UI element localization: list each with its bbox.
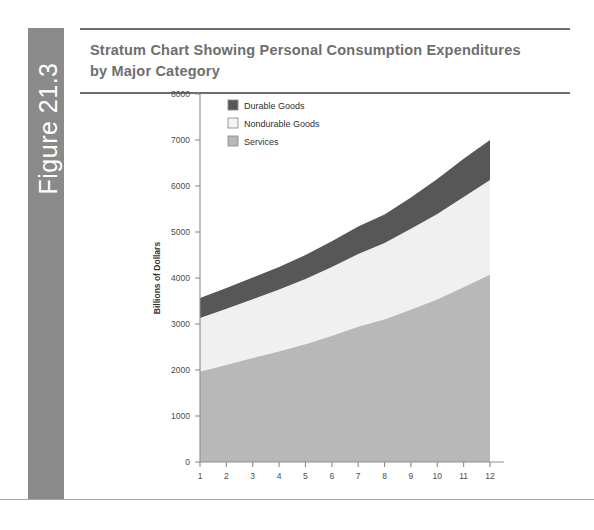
x-tick-label: 3 (250, 471, 255, 481)
figure-number-tab: Figure 21.3 (28, 28, 64, 500)
x-tick-group: 123456789101112 (198, 462, 495, 481)
y-tick-label: 3000 (171, 319, 190, 329)
legend-swatch (228, 136, 238, 146)
legend-swatch (228, 100, 238, 110)
figure-title-block: Stratum Chart Showing Personal Consumpti… (80, 28, 570, 94)
figure-page: Figure 21.3 Stratum Chart Showing Person… (0, 0, 594, 530)
x-tick-label: 2 (224, 471, 229, 481)
x-tick-label: 5 (303, 471, 308, 481)
y-tick-label: 7000 (171, 135, 190, 145)
figure-title-line1: Stratum Chart Showing Personal Consumpti… (90, 42, 521, 58)
y-tick-label: 6000 (171, 181, 190, 191)
x-tick-label: 10 (433, 471, 443, 481)
y-axis-title: Billions of Dollars (152, 242, 162, 315)
figure-title-line2: by Major Category (90, 63, 220, 79)
x-tick-label: 7 (356, 471, 361, 481)
figure-title: Stratum Chart Showing Personal Consumpti… (80, 30, 570, 92)
chart-canvas: 010002000300040005000600070008000 123456… (80, 88, 580, 488)
figure-number-label: Figure 21.3 (34, 39, 63, 219)
y-tick-label: 5000 (171, 227, 190, 237)
y-tick-label: 8000 (171, 89, 190, 99)
legend-label: Durable Goods (244, 101, 305, 111)
legend-label: Services (244, 137, 279, 147)
legend-swatch (228, 118, 238, 128)
chart-legend: Durable GoodsNondurable GoodsServices (228, 100, 320, 147)
y-tick-group: 010002000300040005000600070008000 (171, 89, 200, 467)
x-tick-label: 1 (198, 471, 203, 481)
x-tick-label: 6 (329, 471, 334, 481)
x-tick-label: 11 (459, 471, 468, 481)
y-tick-label: 0 (185, 457, 190, 467)
y-tick-label: 2000 (171, 365, 190, 375)
x-tick-label: 8 (382, 471, 387, 481)
x-tick-label: 12 (485, 471, 495, 481)
x-tick-label: 9 (409, 471, 414, 481)
y-tick-label: 4000 (171, 273, 190, 283)
page-bottom-rule (0, 499, 594, 500)
legend-label: Nondurable Goods (244, 119, 320, 129)
area-series-group (200, 140, 490, 462)
x-tick-label: 4 (277, 471, 282, 481)
y-tick-label: 1000 (171, 411, 190, 421)
stratum-chart: 010002000300040005000600070008000 123456… (80, 88, 580, 488)
